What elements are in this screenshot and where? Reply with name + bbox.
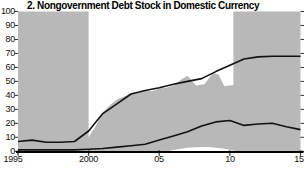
x-axis-label: 10: [220, 154, 240, 165]
chart-plot-area: [0, 0, 308, 176]
y-axis-label: 20: [0, 118, 15, 129]
x-axis-label: 05: [149, 154, 169, 165]
range-area: [18, 12, 301, 152]
x-axis-label: 15: [290, 154, 308, 165]
chart-title: 2. Nongovernment Debt Stock in Domestic …: [27, 0, 259, 12]
chart-panel: 2. Nongovernment Debt Stock in Domestic …: [0, 0, 308, 176]
y-axis-label: 50: [0, 76, 15, 87]
y-axis-label: 10: [0, 132, 15, 143]
x-axis-label: 1995: [0, 154, 26, 165]
y-axis-label: 100: [0, 6, 15, 17]
y-axis-label: 60: [0, 62, 15, 73]
y-axis-label: 70: [0, 48, 15, 59]
x-axis-label: 2000: [74, 154, 103, 165]
y-axis-label: 90: [0, 20, 15, 31]
y-axis-label: 40: [0, 90, 15, 101]
y-axis-label: 80: [0, 34, 15, 45]
y-axis-label: 30: [0, 104, 15, 115]
